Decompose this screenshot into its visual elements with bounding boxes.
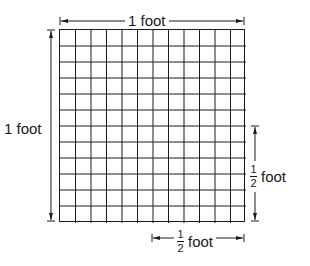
fraction-one-half: 1 2 [250, 164, 257, 189]
fraction-one-half: 1 2 [177, 229, 184, 254]
unit-text: foot [261, 169, 286, 184]
right-dimension-label: 1 2 foot [250, 161, 286, 192]
top-dimension-label: 1 foot [125, 13, 169, 28]
square-foot-grid [59, 29, 245, 222]
left-dimension-label: 1 foot [4, 119, 42, 138]
unit-text: foot [188, 234, 213, 249]
bottom-dimension-label: 1 2 foot [174, 229, 216, 254]
grid-lines [60, 30, 246, 223]
